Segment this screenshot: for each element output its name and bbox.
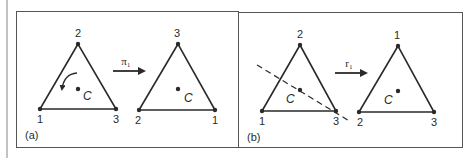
panel-a-frame <box>17 12 239 148</box>
panel-b-frame <box>239 13 463 148</box>
center-label: C <box>184 91 193 105</box>
vertex-label-top: 1 <box>394 29 400 41</box>
operation-label-r1: r₁ <box>345 57 353 69</box>
operation-arrow-b: r₁ <box>335 57 366 73</box>
center-dot <box>176 87 180 91</box>
vertex-label-top: 3 <box>174 27 180 39</box>
operation-label-pi1: π₁ <box>121 55 131 67</box>
operation-arrow-a: π₁ <box>113 55 144 71</box>
center-dot <box>396 89 400 93</box>
vertex-label-bottom-right: 3 <box>333 115 339 127</box>
panel-tag-b: (b) <box>247 131 260 143</box>
panel-b: 2 1 3 C r₁ 1 2 3 C (b) <box>247 28 437 143</box>
triangle-a-after: 3 2 1 C <box>135 27 218 126</box>
vertex-label-bottom-left: 1 <box>37 113 43 125</box>
vertex-label-bottom-left: 1 <box>259 115 265 127</box>
vertex-label-top: 2 <box>75 27 81 39</box>
center-label: C <box>384 93 393 107</box>
center-label: C <box>83 89 92 103</box>
vertex-label-bottom-left: 2 <box>357 116 363 128</box>
vertex-label-bottom-right: 1 <box>212 114 218 126</box>
vertex-label-bottom-right: 3 <box>431 116 437 128</box>
center-label: C <box>286 92 295 106</box>
center-dot <box>76 87 80 91</box>
panel-a: 2 1 3 C π₁ 3 2 1 C (a) <box>25 27 218 141</box>
triangle-b-after: 1 2 3 C <box>357 29 437 128</box>
vertex-label-bottom-right: 3 <box>113 113 119 125</box>
vertex-label-bottom-left: 2 <box>135 114 141 126</box>
triangle-a-before: 2 1 3 C <box>37 27 119 125</box>
panel-tag-a: (a) <box>25 129 38 141</box>
vertex-label-top: 2 <box>297 28 303 40</box>
triangle-b-before: 2 1 3 C <box>257 28 351 127</box>
symmetry-operations-figure: 2 1 3 C π₁ 3 2 1 C (a) <box>0 0 475 158</box>
rotation-arrow-icon <box>62 73 77 89</box>
